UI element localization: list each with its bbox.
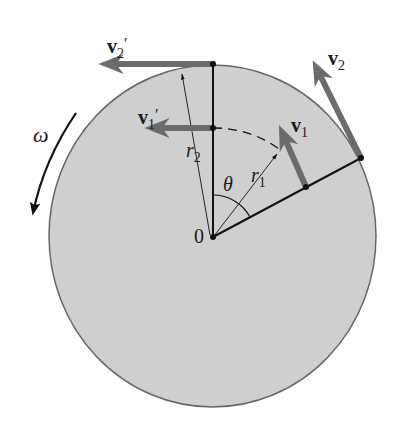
mid-point [210,125,216,131]
v1-sub: 1 [301,125,308,140]
origin-label: 0 [194,226,204,246]
r2-base: r [186,139,194,161]
top-point [210,61,216,67]
v1-prime-label: v1′ [138,107,159,127]
omega-label: ω [33,124,49,146]
v2-prime-label: v2′ [107,36,128,56]
v1-prime-base: v [138,106,148,128]
r1-sub: 1 [259,175,266,190]
v1-base: v [291,114,301,136]
r1-base: r [251,164,259,186]
inner-rotated-point [303,184,309,190]
v2-prime-mark: ′ [124,35,128,52]
r2-label: r2 [186,140,201,160]
v2-prime-sub: 2 [117,46,124,61]
v2-prime-base: v [107,35,117,57]
origin-point [210,234,216,240]
r2-sub: 2 [194,150,201,165]
v1-prime-sub: 1 [148,117,155,132]
theta-label: θ [223,174,233,194]
v2-label: v2 [328,48,345,68]
v1-label: v1 [291,115,308,135]
v2-base: v [328,47,338,69]
diagram-canvas: v2′ v1′ v2 v1 r2 r1 θ ω 0 [0,0,404,430]
v2-sub: 2 [338,58,345,73]
outer-rotated-point [358,155,364,161]
r1-label: r1 [251,165,266,185]
v1-prime-mark: ′ [155,106,159,123]
